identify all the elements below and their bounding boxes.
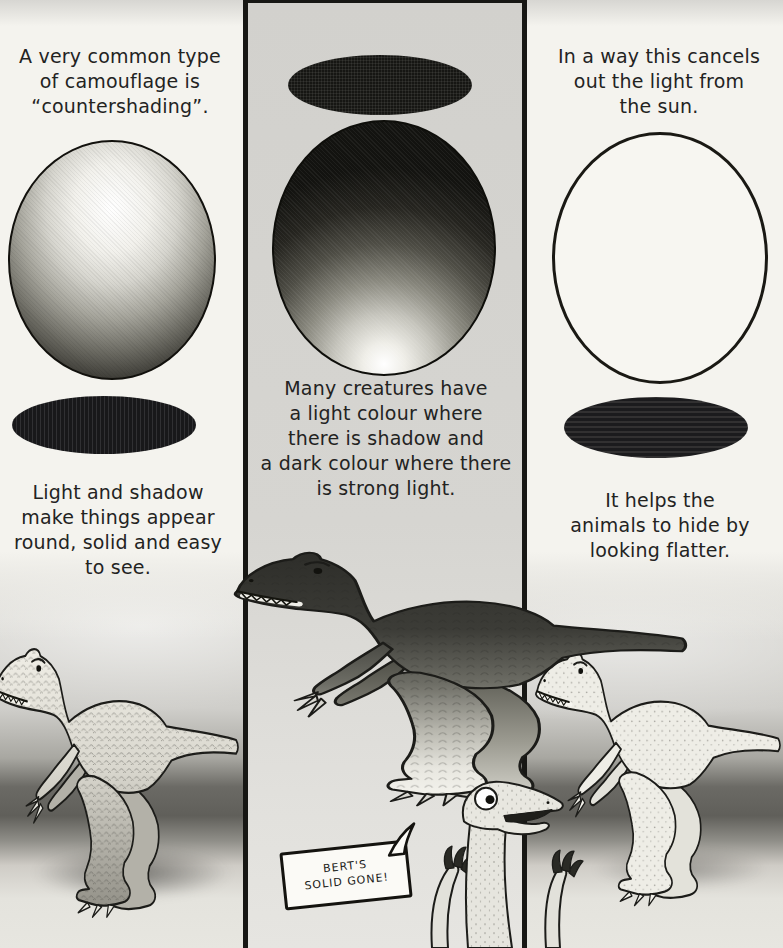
caption-line: there is shadow and [250,426,522,451]
small-dino-right-arm [545,868,566,948]
caption-line: It helps the [546,488,774,513]
speech-bubble-tail [382,823,419,856]
small-dino-nostril [547,801,550,804]
caption-line: In a way this cancels [540,44,778,69]
left-bottom-caption: Light and shadow make things appear roun… [0,480,236,580]
caption-line: Light and shadow [0,480,236,505]
left-cast-shadow-ellipse [12,396,196,454]
middle-dinosaur-countershaded [228,512,693,812]
caption-line: of camouflage is [4,69,236,94]
middle-dark-ellipse [288,55,472,115]
caption-line: round, solid and easy [0,530,236,555]
left-dinosaur-normally-shaded [0,606,242,924]
small-dino-right-claws [552,850,583,877]
caption-line: out the light from [540,69,778,94]
caption-line: make things appear [0,505,236,530]
caption-line: Many creatures have [250,376,522,401]
caption-line: a light colour where [250,401,522,426]
caption-line: the sun. [540,94,778,119]
left-top-caption: A very common type of camouflage is “cou… [4,44,236,119]
middle-caption: Many creatures have a light colour where… [250,376,522,501]
caption-line: “countershading”. [4,94,236,119]
caption-line: is strong light. [250,476,522,501]
caption-line: a dark colour where there [250,451,522,476]
right-outline-egg [552,132,768,384]
right-cast-shadow-ellipse [564,397,748,458]
small-dino-pupil [486,795,495,804]
caption-line: to see. [0,555,236,580]
comic-page: A very common type of camouflage is “cou… [0,0,783,948]
small-dino-left-arm [432,865,459,948]
middle-countershaded-sphere [272,120,496,376]
caption-line: A very common type [4,44,236,69]
small-dinosaur-looking-up [402,770,592,948]
right-top-caption: In a way this cancels out the light from… [540,44,778,119]
left-shaded-sphere [8,140,216,380]
